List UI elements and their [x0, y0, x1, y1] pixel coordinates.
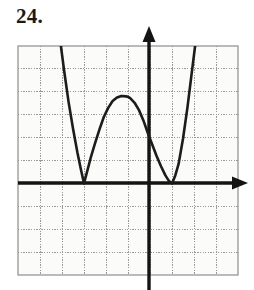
figure-root: 24.: [0, 0, 254, 290]
graph-area: [0, 0, 254, 290]
x-axis-arrow-icon: [232, 177, 248, 190]
y-axis-arrow-icon: [143, 26, 156, 42]
coordinate-graph: [0, 0, 254, 290]
